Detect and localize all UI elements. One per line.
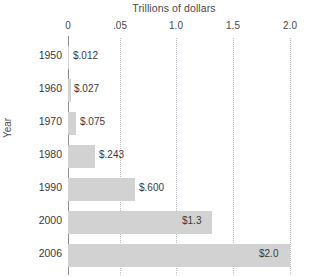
bar-2006 — [68, 244, 290, 267]
x-tick-label-0: 0 — [65, 20, 71, 31]
bar-1980 — [68, 145, 95, 168]
chart-title: Trillions of dollars — [13, 2, 322, 14]
y-cat-label-2006: 2006 — [39, 247, 62, 259]
x-tick-label-1: .05 — [113, 20, 127, 31]
bar-value-1960: $.027 — [74, 83, 99, 94]
gridline-1-5 — [233, 38, 234, 275]
x-tick-label-4: 2.0 — [283, 20, 297, 31]
bar-value-1990: $.600 — [139, 182, 164, 193]
bar-value-1970: $.075 — [80, 116, 105, 127]
y-axis-category-labels: 1950 1960 1970 1980 1990 2000 2006 — [0, 44, 62, 275]
y-cat-label-1950: 1950 — [39, 49, 62, 61]
bar-1970 — [68, 112, 76, 135]
bar-value-2000: $1.3 — [182, 215, 201, 226]
gridline-2-0 — [290, 38, 291, 275]
bar-value-1980: $.243 — [99, 149, 124, 160]
bar-chart: Trillions of dollars Year 0 .05 1.0 1.5 … — [0, 0, 322, 277]
bar-1990 — [68, 178, 135, 201]
bar-1950 — [68, 46, 69, 69]
y-cat-label-1960: 1960 — [39, 82, 62, 94]
bar-value-1950: $.012 — [73, 50, 98, 61]
bar-value-2006: $2.0 — [259, 248, 278, 259]
y-cat-label-1970: 1970 — [39, 115, 62, 127]
y-cat-label-1990: 1990 — [39, 181, 62, 193]
y-cat-label-2000: 2000 — [39, 214, 62, 226]
x-tick-label-2: 1.0 — [169, 20, 183, 31]
x-axis-tick-labels: 0 .05 1.0 1.5 2.0 — [68, 20, 290, 36]
gridline-1-0 — [176, 38, 177, 275]
plot-area: $.012 $.027 $.075 $.243 $.600 $1.3 $2.0 — [68, 44, 290, 275]
y-cat-label-1980: 1980 — [39, 148, 62, 160]
x-tick-label-3: 1.5 — [226, 20, 240, 31]
bar-1960 — [68, 79, 71, 102]
